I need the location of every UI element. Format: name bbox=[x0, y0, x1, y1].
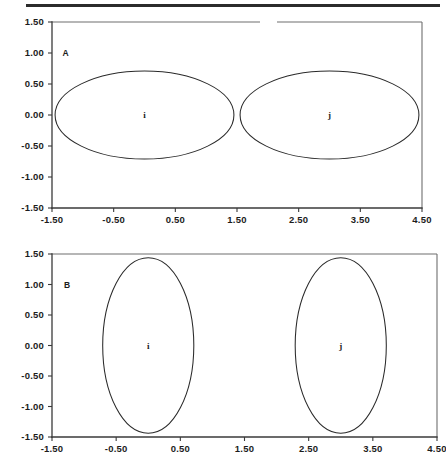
panel-letter-b: B bbox=[64, 280, 70, 290]
y-axis-tick-label: 1.00 bbox=[25, 279, 44, 290]
y-axis-tick-label: 0.00 bbox=[25, 340, 44, 351]
panel-letter-a: A bbox=[63, 48, 69, 58]
x-axis-tick-label: 3.50 bbox=[363, 443, 382, 454]
ellipse-label-j: j bbox=[338, 341, 342, 351]
y-axis-tick-label: -0.50 bbox=[21, 370, 44, 381]
y-axis-tick-label: -1.00 bbox=[21, 171, 44, 182]
y-axis-tick-label: 1.50 bbox=[25, 16, 44, 27]
figure-root: -1.50-1.00-0.500.000.501.001.50-1.50-0.5… bbox=[0, 0, 446, 471]
x-axis-tick-label: 0.50 bbox=[171, 443, 190, 454]
y-axis-tick-label: -1.50 bbox=[21, 431, 44, 442]
panel-a: -1.50-1.00-0.500.000.501.001.50-1.50-0.5… bbox=[0, 0, 446, 235]
ellipse-label-j: j bbox=[327, 110, 331, 120]
y-axis-tick-label: -1.00 bbox=[21, 401, 44, 412]
x-axis-tick-label: 2.50 bbox=[299, 443, 318, 454]
y-axis-tick-label: 1.00 bbox=[25, 47, 44, 58]
x-axis-tick-label: 1.50 bbox=[227, 214, 246, 225]
y-axis-tick-label: 0.50 bbox=[25, 309, 44, 320]
ellipse-label-i: i bbox=[147, 341, 150, 351]
y-axis-tick-label: 0.00 bbox=[25, 109, 44, 120]
y-axis-tick-label: 0.50 bbox=[25, 78, 44, 89]
panel-a-plot: -1.50-1.00-0.500.000.501.001.50-1.50-0.5… bbox=[0, 0, 446, 235]
x-axis-tick-label: -1.50 bbox=[41, 214, 64, 225]
panel-b-plot: -1.50-1.00-0.500.000.501.001.50-1.50-0.5… bbox=[0, 235, 446, 471]
x-axis-tick-label: -1.50 bbox=[41, 443, 64, 454]
x-axis-tick-label: -0.50 bbox=[102, 214, 125, 225]
y-axis-tick-label: 1.50 bbox=[25, 248, 44, 259]
panel-b: -1.50-1.00-0.500.000.501.001.50-1.50-0.5… bbox=[0, 235, 446, 471]
x-axis-tick-label: -0.50 bbox=[105, 443, 128, 454]
ellipse-label-i: i bbox=[143, 110, 146, 120]
y-axis-tick-label: -1.50 bbox=[21, 202, 44, 213]
x-axis-tick-label: 4.50 bbox=[412, 214, 431, 225]
x-axis-tick-label: 2.50 bbox=[289, 214, 308, 225]
x-axis-tick-label: 3.50 bbox=[351, 214, 370, 225]
y-axis-tick-label: -0.50 bbox=[21, 140, 44, 151]
x-axis-tick-label: 1.50 bbox=[235, 443, 254, 454]
x-axis-tick-label: 4.50 bbox=[427, 443, 446, 454]
x-axis-tick-label: 0.50 bbox=[166, 214, 185, 225]
